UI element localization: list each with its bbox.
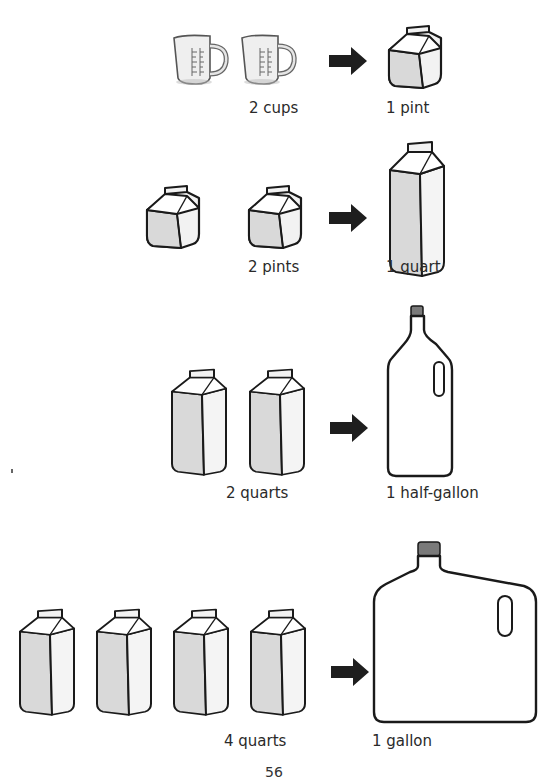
quart-carton-icon <box>247 608 309 718</box>
measuring-cup-icon <box>238 34 300 88</box>
half-gallon-bottle-icon <box>386 304 454 480</box>
label-2-quarts: 2 quarts <box>226 484 288 502</box>
label-4-quarts: 4 quarts <box>224 732 286 750</box>
label-2-pints: 2 pints <box>248 258 299 276</box>
quart-carton-icon <box>246 368 308 478</box>
measuring-cup-icon <box>170 34 232 88</box>
arrow-right-icon <box>329 47 369 77</box>
quart-carton-icon <box>93 608 155 718</box>
label-1-quart: 1 quart <box>386 258 441 276</box>
arrow-right-icon <box>331 658 371 688</box>
page-number: 56 <box>265 764 283 780</box>
quart-carton-icon <box>16 608 78 718</box>
label-1-gallon: 1 gallon <box>372 732 432 750</box>
label-1-pint: 1 pint <box>386 99 429 117</box>
quart-carton-icon <box>170 608 232 718</box>
label-2-cups: 2 cups <box>249 99 298 117</box>
pint-carton-icon <box>245 184 307 252</box>
pint-carton-icon <box>143 184 205 252</box>
gallon-jug-icon <box>372 540 538 726</box>
scan-mark <box>11 469 13 473</box>
arrow-right-icon <box>329 204 369 234</box>
label-1-half-gallon: 1 half-gallon <box>386 484 479 502</box>
quart-carton-icon <box>168 368 230 478</box>
pint-carton-icon <box>385 24 447 92</box>
arrow-right-icon <box>330 414 370 444</box>
